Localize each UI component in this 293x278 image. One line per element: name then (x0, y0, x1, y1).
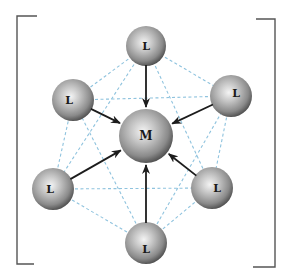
atom-label: L (142, 40, 150, 53)
sphere (191, 167, 233, 209)
atom-label: L (213, 182, 221, 195)
edge-upper-left-upper-right (73, 96, 231, 100)
atom-label: L (232, 87, 240, 100)
left-bracket (17, 16, 37, 264)
octahedral-complex-diagram: LLLLLLM (0, 0, 293, 278)
edge-lower-left-lower-right (53, 188, 212, 189)
ligand-lower-right: L (191, 167, 233, 209)
ligand-upper-right: L (210, 75, 252, 117)
ligand-lower-left: L (32, 168, 74, 210)
arrow-upper-right-to-metal (172, 105, 213, 124)
atom-label: L (65, 94, 73, 107)
arrow-lower-right-to-metal (169, 154, 197, 176)
atom-label: L (142, 243, 150, 256)
ligand-top: L (126, 26, 166, 66)
right-bracket (253, 19, 275, 267)
ligand-upper-left: L (52, 79, 94, 121)
atom-label: M (139, 129, 152, 143)
sphere (210, 75, 252, 117)
sphere (52, 79, 94, 121)
ligand-bottom: L (125, 222, 167, 264)
arrow-upper-left-to-metal (91, 109, 120, 123)
atom-label: L (46, 183, 54, 196)
arrow-lower-left-to-metal (70, 150, 120, 179)
atoms: LLLLLLM (32, 26, 252, 264)
central-metal: M (119, 109, 173, 163)
